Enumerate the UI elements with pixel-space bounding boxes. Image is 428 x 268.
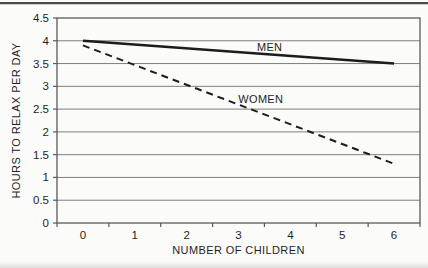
x-axis: 0123456	[57, 223, 420, 241]
gridlines	[57, 41, 420, 200]
y-tick-label: 3.5	[33, 58, 49, 70]
scanned-page: 00.511.522.533.544.50123456MENWOMENNUMBE…	[0, 0, 428, 268]
y-axis-title: HOURS TO RELAX PER DAY	[10, 42, 22, 198]
y-tick-label: 4.5	[33, 12, 49, 24]
series-line-men	[83, 41, 394, 64]
x-tick-label: 2	[183, 229, 189, 241]
y-tick-label: 2	[43, 126, 49, 138]
x-axis-title: NUMBER OF CHILDREN	[172, 244, 305, 256]
x-tick-label: 4	[287, 229, 294, 241]
y-tick-label: 1	[43, 171, 49, 183]
y-tick-label: 0	[43, 217, 49, 229]
y-tick-label: 0.5	[33, 194, 49, 206]
scan-artifact	[0, 261, 428, 268]
x-tick-label: 5	[339, 229, 345, 241]
y-tick-label: 4	[43, 35, 50, 47]
y-tick-label: 3	[43, 80, 49, 92]
x-tick-label: 6	[391, 229, 397, 241]
x-tick-label: 0	[80, 229, 86, 241]
plot-frame	[57, 18, 420, 223]
series-label-men: MEN	[257, 41, 282, 53]
y-axis: 00.511.522.533.544.5	[33, 12, 57, 229]
x-tick-label: 1	[132, 229, 138, 241]
relax-hours-line-chart: 00.511.522.533.544.50123456MENWOMENNUMBE…	[0, 0, 428, 268]
y-tick-label: 1.5	[33, 149, 49, 161]
series-label-women: WOMEN	[238, 93, 283, 105]
y-tick-label: 2.5	[33, 103, 49, 115]
x-tick-label: 3	[235, 229, 241, 241]
